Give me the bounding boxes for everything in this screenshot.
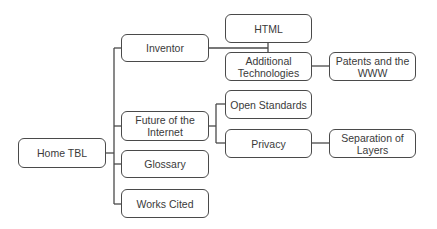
node-separation-of-layers: Separation of Layers [329, 129, 416, 158]
node-works-cited: Works Cited [121, 189, 209, 218]
node-glossary: Glossary [121, 150, 209, 178]
node-home-tbl: Home TBL [18, 138, 106, 168]
node-open-standards: Open Standards [225, 90, 312, 119]
node-future-of-the-internet: Future of the Internet [121, 111, 209, 141]
node-inventor: Inventor [121, 34, 209, 62]
connector-lines [0, 0, 437, 229]
node-patents-and-the-www: Patents and the WWW [329, 52, 416, 81]
node-additional-technologies: Additional Technologies [225, 52, 312, 81]
node-privacy: Privacy [225, 129, 312, 158]
site-map-diagram: Home TBL Inventor Future of the Internet… [0, 0, 437, 229]
node-html: HTML [225, 14, 312, 43]
